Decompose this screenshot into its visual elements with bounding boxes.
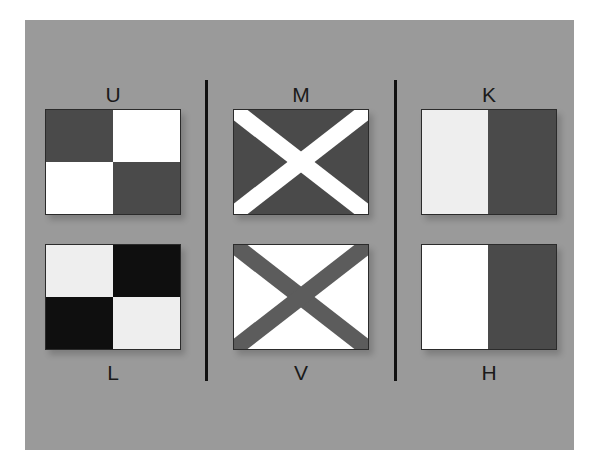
column-divider-right [394,80,397,381]
flag-label-v: V [233,362,369,384]
flag-label-k: K [421,84,557,106]
flag-k-bicolor [421,109,557,215]
flag-m-saltire [233,109,369,215]
flag-label-h: H [421,362,557,384]
flag-label-l: L [45,362,181,384]
flag-l-quartered [45,244,181,350]
flag-u-quartered [45,109,181,215]
flag-v-saltire [233,244,369,350]
flag-label-u: U [45,84,181,106]
flag-label-m: M [233,84,369,106]
column-divider-left [205,80,208,381]
flag-h-bicolor [421,244,557,350]
